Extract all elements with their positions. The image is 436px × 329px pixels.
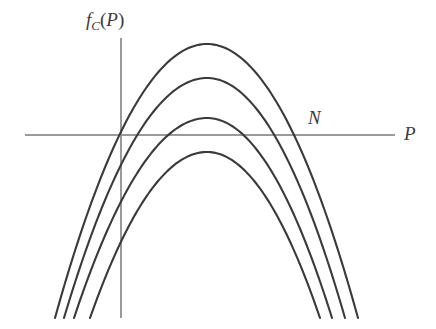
x-axis-label: P bbox=[404, 124, 416, 143]
parabola-curve-2 bbox=[64, 78, 345, 318]
curves-group bbox=[55, 44, 358, 318]
point-n-label: N bbox=[308, 108, 321, 127]
plot-canvas bbox=[0, 0, 436, 329]
axes-group bbox=[25, 38, 395, 318]
parabola-curve-1 bbox=[55, 44, 358, 318]
parabola-curve-4 bbox=[90, 152, 320, 318]
y-axis-label-close-paren: ) bbox=[118, 9, 124, 30]
y-axis-label-variable: P bbox=[106, 9, 118, 30]
figure-container: fC(P) P N bbox=[0, 0, 436, 329]
y-axis-label: fC(P) bbox=[86, 10, 124, 32]
y-axis-label-subscript: C bbox=[91, 18, 100, 33]
